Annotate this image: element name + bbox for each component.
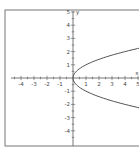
x-tick-label: -1 [57, 81, 62, 87]
y-tick-label: -2 [65, 101, 70, 107]
x-tick-label: -4 [18, 81, 24, 87]
y-tick-label: -4 [65, 128, 71, 134]
x-tick-label: 2 [97, 81, 101, 87]
y-tick-label: 3 [67, 35, 71, 41]
x-tick-label: -2 [44, 81, 49, 87]
y-tick-label: 4 [67, 22, 71, 28]
y-tick-label: -1 [65, 88, 70, 94]
y-tick-label: 5 [67, 9, 71, 15]
y-tick-label: 2 [67, 49, 71, 55]
x-axis-label: x [135, 70, 139, 76]
x-tick-label: 5 [136, 81, 139, 87]
x-tick-label: -3 [31, 81, 37, 87]
parabola-chart: -4-3-2-11234554321-1-2-3-4 x y [0, 0, 139, 151]
x-tick-label: 4 [123, 81, 127, 87]
tick-labels: -4-3-2-11234554321-1-2-3-4 [18, 9, 139, 134]
x-tick-label: 3 [110, 81, 114, 87]
ticks [15, 12, 139, 137]
y-tick-label: -3 [65, 115, 71, 121]
y-tick-label: 1 [67, 62, 71, 68]
x-tick-label: 1 [84, 81, 88, 87]
axes [11, 11, 139, 146]
